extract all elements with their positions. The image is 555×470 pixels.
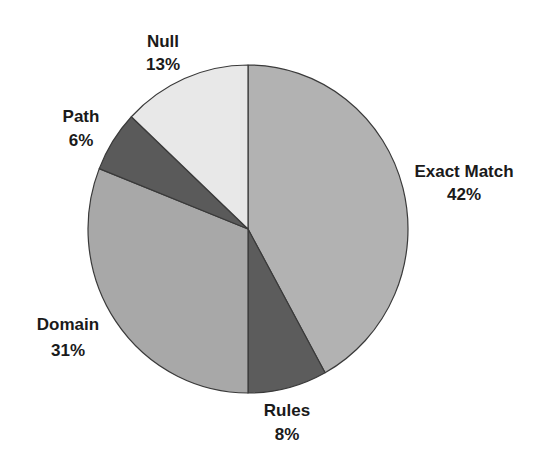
label-domain-pct: 31% xyxy=(51,341,85,360)
label-null-name: Null xyxy=(147,32,179,51)
pie-slices xyxy=(88,65,408,393)
label-path-pct: 6% xyxy=(69,131,94,150)
label-path-name: Path xyxy=(63,107,100,126)
pie-chart: Exact Match 42% Rules 8% Domain 31% Path… xyxy=(0,0,555,470)
label-null-pct: 13% xyxy=(146,55,180,74)
label-exact-match-name: Exact Match xyxy=(414,162,513,181)
label-domain-name: Domain xyxy=(37,315,99,334)
label-rules-name: Rules xyxy=(264,401,310,420)
label-exact-match-pct: 42% xyxy=(447,185,481,204)
label-rules-pct: 8% xyxy=(275,425,300,444)
